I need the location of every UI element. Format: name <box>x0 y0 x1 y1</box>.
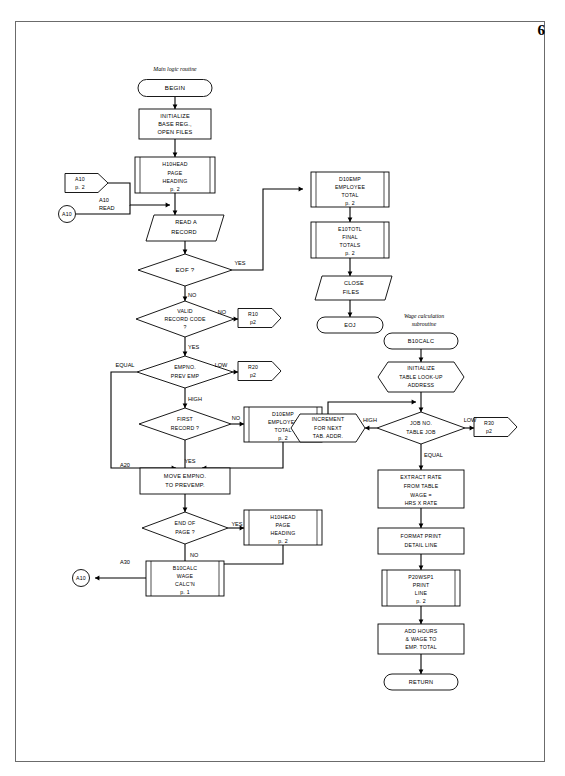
svg-text:A20: A20 <box>120 462 130 468</box>
svg-text:PREV EMP: PREV EMP <box>171 373 200 379</box>
connector-r20-offpage: R20 p2 <box>238 362 281 381</box>
node-initialize-table: INITIALIZE TABLE LOOK-UP ADDRESS <box>378 362 464 392</box>
svg-text:NO: NO <box>190 552 199 558</box>
svg-text:BASE REG.,: BASE REG., <box>158 121 192 127</box>
caption-main-routine: Main logic routine <box>152 66 197 72</box>
node-decision-job-no: JOB NO. TABLE JOB <box>377 412 465 444</box>
node-b10calc-entry: B10CALC <box>384 333 458 349</box>
svg-text:ADDRESS: ADDRESS <box>408 382 435 388</box>
node-format-print: FORMAT PRINT DETAIL LINE <box>378 528 464 554</box>
svg-text:VALID: VALID <box>177 308 193 314</box>
svg-text:p2: p2 <box>250 319 256 325</box>
svg-text:WAGE =: WAGE = <box>410 492 431 498</box>
svg-text:NO: NO <box>188 292 197 298</box>
svg-text:CALC'N: CALC'N <box>175 581 195 587</box>
svg-text:A10: A10 <box>76 575 86 581</box>
svg-text:NO: NO <box>218 309 227 315</box>
svg-text:EMPLOYEE: EMPLOYEE <box>335 184 365 190</box>
svg-text:B10CALC: B10CALC <box>408 338 434 344</box>
connector-r10-offpage: R10 p2 <box>238 309 281 328</box>
connector-a10-circle: A10 <box>59 206 76 223</box>
node-return: RETURN <box>384 674 458 690</box>
svg-text:p2: p2 <box>486 428 492 434</box>
svg-text:LINE: LINE <box>415 590 428 596</box>
svg-text:WAGE: WAGE <box>177 573 194 579</box>
svg-text:EOJ: EOJ <box>344 322 355 328</box>
node-d10emp-b: D10EMP EMPLOYEE TOTAL p. 2 <box>311 172 389 207</box>
svg-text:EMP. TOTAL: EMP. TOTAL <box>405 644 437 650</box>
svg-text:HIGH: HIGH <box>188 396 202 402</box>
svg-text:A10: A10 <box>99 197 109 203</box>
caption-wage-subroutine-line1: Wage calculation <box>404 313 444 319</box>
svg-text:D10EMP: D10EMP <box>339 176 361 182</box>
svg-text:TAB. ADDR.: TAB. ADDR. <box>313 433 343 439</box>
svg-text:INITIALIZE: INITIALIZE <box>160 113 190 119</box>
svg-text:CLOSE: CLOSE <box>344 280 364 286</box>
svg-text:RECORD CODE: RECORD CODE <box>164 316 205 322</box>
svg-text:INITIALIZE: INITIALIZE <box>407 365 435 371</box>
connector-r30-offpage: R30 p2 <box>474 418 517 437</box>
svg-text:p. 2: p. 2 <box>278 538 287 544</box>
node-p20wsp1: P20WSP1 PRINT LINE p. 2 <box>382 570 460 606</box>
svg-text:PRINT: PRINT <box>413 582 430 588</box>
svg-text:INCREMENT: INCREMENT <box>312 416 345 422</box>
node-close-files: CLOSE FILES <box>315 276 392 300</box>
svg-text:HEADING: HEADING <box>270 530 295 536</box>
svg-text:p. 2: p. 2 <box>170 186 179 192</box>
svg-text:MOVE EMPNO.: MOVE EMPNO. <box>164 473 207 479</box>
node-initialize: INITIALIZE BASE REG., OPEN FILES <box>139 109 211 139</box>
svg-text:p. 1: p. 1 <box>180 589 189 595</box>
svg-text:FROM TABLE: FROM TABLE <box>404 483 439 489</box>
node-h10head-2: H10HEAD PAGE HEADING p. 2 <box>244 510 322 545</box>
svg-text:TOTAL: TOTAL <box>341 192 358 198</box>
svg-text:OPEN FILES: OPEN FILES <box>158 129 193 135</box>
node-add-hours: ADD HOURS & WAGE TO EMP. TOTAL <box>378 624 464 654</box>
node-e10totl: E10TOTL FINAL TOTALS p. 2 <box>311 222 389 258</box>
svg-text:FINAL: FINAL <box>342 234 358 240</box>
svg-text:& WAGE TO: & WAGE TO <box>406 636 437 642</box>
node-h10head-1: H10HEAD PAGE HEADING p. 2 <box>135 157 215 193</box>
node-decision-empno: EMPNO. PREV EMP <box>137 356 233 388</box>
connector-a10-offpage: A10 p. 2 <box>65 174 108 193</box>
node-eoj: EOJ <box>317 317 383 333</box>
svg-text:YES: YES <box>234 260 245 266</box>
svg-text:RETURN: RETURN <box>409 679 434 685</box>
node-decision-valid-code: VALID RECORD CODE ? <box>136 301 234 337</box>
node-b10calc-call: B10CALC WAGE CALC'N p. 1 <box>146 561 224 596</box>
svg-text:p2: p2 <box>250 372 256 378</box>
svg-text:A10: A10 <box>75 176 85 182</box>
svg-text:RECORD: RECORD <box>171 229 196 235</box>
svg-text:LOW: LOW <box>464 417 477 423</box>
node-read-record: READ A RECORD <box>146 215 224 241</box>
svg-text:TABLE JOB: TABLE JOB <box>406 429 436 435</box>
svg-text:p. 2: p. 2 <box>416 598 425 604</box>
svg-text:PAGE: PAGE <box>168 170 183 176</box>
svg-text:B10CALC: B10CALC <box>173 565 198 571</box>
node-begin-label: BEGIN <box>165 84 185 91</box>
connector-a10-bottom-circle: A10 <box>73 570 90 587</box>
svg-text:p. 2: p. 2 <box>75 184 84 190</box>
svg-text:PAGE ?: PAGE ? <box>175 529 195 535</box>
svg-text:EXTRACT RATE: EXTRACT RATE <box>400 474 442 480</box>
node-begin: BEGIN <box>138 80 212 97</box>
svg-text:FILES: FILES <box>343 289 360 295</box>
svg-text:?: ? <box>183 324 186 330</box>
svg-text:FIRST: FIRST <box>177 416 194 422</box>
svg-text:READ: READ <box>99 205 115 211</box>
node-decision-end-of-page: END OF PAGE ? <box>142 512 228 544</box>
node-decision-first-record: FIRST RECORD ? <box>139 408 231 440</box>
node-increment-table-addr: INCREMENT FOR NEXT TAB. ADDR. <box>291 414 365 442</box>
svg-text:DETAIL LINE: DETAIL LINE <box>405 542 438 548</box>
caption-wage-subroutine-line2: subroutine <box>412 321 437 327</box>
flowchart-page: 6 <box>0 0 565 776</box>
svg-text:NO: NO <box>232 415 241 421</box>
svg-text:R20: R20 <box>248 364 258 370</box>
svg-text:EQUAL: EQUAL <box>116 362 135 368</box>
svg-text:RECORD ?: RECORD ? <box>171 425 199 431</box>
flowchart-canvas: BEGIN INITIALIZE BASE REG., OPEN FILES H… <box>0 0 565 776</box>
svg-text:E10TOTL: E10TOTL <box>338 226 362 232</box>
svg-text:EOF ?: EOF ? <box>176 266 195 273</box>
svg-text:YES: YES <box>188 344 199 350</box>
svg-text:FORMAT PRINT: FORMAT PRINT <box>401 533 442 539</box>
svg-text:A30: A30 <box>120 559 130 565</box>
